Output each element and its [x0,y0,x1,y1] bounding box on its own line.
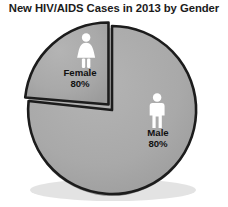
slice-label-female-value: 80% [52,79,108,90]
slice-label-female: Female 80% [52,68,108,89]
pie-chart-graphic [0,0,228,207]
slice-label-male: Male 80% [130,128,186,149]
pie-chart-figure: New HIV/AIDS Cases in 2013 by Gender [0,0,228,207]
slice-label-male-value: 80% [130,139,186,150]
pie-slice-female[interactable] [25,23,108,105]
